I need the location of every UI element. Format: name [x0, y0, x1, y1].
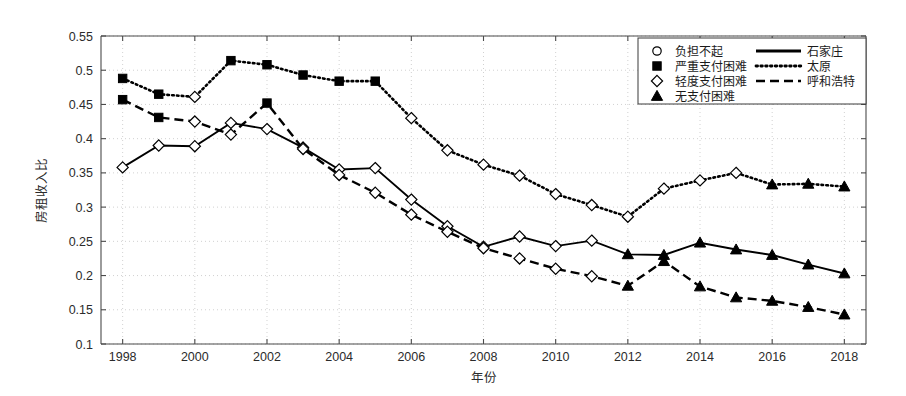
x-tick-label: 2016	[758, 350, 786, 364]
x-tick-label: 2012	[614, 350, 642, 364]
data-point-marker	[335, 77, 343, 85]
data-point-marker	[370, 187, 381, 198]
x-tick-label: 2018	[830, 350, 858, 364]
y-tick-label: 0.35	[69, 166, 93, 180]
x-tick-label: 2010	[542, 350, 570, 364]
data-point-marker	[263, 99, 271, 107]
legend-label-line: 呼和浩特	[807, 74, 855, 89]
data-point-marker	[118, 95, 126, 103]
data-point-marker	[155, 113, 163, 121]
y-tick-label: 0.15	[69, 303, 93, 317]
y-tick-label: 0.25	[69, 235, 93, 249]
data-point-marker	[694, 175, 705, 186]
x-tick-label: 2008	[470, 350, 498, 364]
legend-label-marker: 无支付困难	[675, 90, 735, 104]
x-tick-label: 1998	[109, 350, 137, 364]
legend-marker-circle	[653, 47, 661, 55]
data-point-marker	[189, 141, 200, 152]
data-point-marker	[550, 241, 561, 252]
x-tick-label: 2006	[397, 350, 425, 364]
data-point-marker	[155, 90, 163, 98]
data-point-marker	[118, 74, 126, 82]
data-point-marker	[225, 117, 236, 128]
data-point-marker	[153, 140, 164, 151]
y-tick-label: 0.2	[76, 269, 93, 283]
x-axis-title: 年份	[471, 370, 497, 385]
x-tick-label: 2014	[686, 350, 714, 364]
data-point-marker	[371, 77, 379, 85]
y-tick-label: 0.45	[69, 98, 93, 112]
x-tick-label: 2002	[253, 350, 281, 364]
legend-marker-square	[653, 62, 661, 70]
data-point-marker	[694, 237, 705, 247]
data-point-marker	[261, 123, 272, 134]
data-point-marker	[442, 145, 453, 156]
rent-income-ratio-chart: 0.10.150.20.250.30.350.40.450.50.5519982…	[0, 0, 906, 396]
data-point-marker	[550, 263, 561, 274]
y-tick-label: 0.5	[76, 64, 93, 78]
data-point-marker	[586, 199, 597, 210]
data-point-marker	[478, 159, 489, 170]
data-point-marker	[550, 189, 561, 200]
data-point-marker	[514, 231, 525, 242]
chart-canvas: 0.10.150.20.250.30.350.40.450.50.5519982…	[0, 0, 906, 396]
y-tick-label: 0.1	[76, 338, 93, 352]
data-point-marker	[514, 170, 525, 181]
legend-label-line: 石家庄	[807, 44, 843, 59]
y-tick-label: 0.3	[76, 201, 93, 215]
data-point-marker	[299, 71, 307, 79]
y-tick-label: 0.4	[76, 132, 93, 146]
x-tick-label: 2004	[325, 350, 353, 364]
y-tick-label: 0.55	[69, 30, 93, 44]
legend-label-line: 太原	[807, 59, 831, 74]
data-point-marker	[406, 209, 417, 220]
data-point-marker	[839, 309, 850, 319]
x-tick-label: 2000	[181, 350, 209, 364]
data-point-marker	[514, 253, 525, 264]
y-axis-title: 房租收入比	[34, 158, 49, 223]
data-point-marker	[730, 167, 741, 178]
data-point-marker	[189, 116, 200, 127]
legend-label-marker: 负担不起	[675, 45, 723, 59]
legend-label-marker: 严重支付困难	[675, 60, 747, 74]
chart-legend: 负担不起严重支付困难轻度支付困难无支付困难石家庄太原呼和浩特	[638, 38, 866, 104]
data-point-marker	[117, 162, 128, 173]
data-point-marker	[263, 61, 271, 69]
series-呼和浩特	[118, 95, 849, 318]
data-point-marker	[227, 56, 235, 64]
legend-label-marker: 轻度支付困难	[675, 74, 747, 89]
data-point-marker	[586, 271, 597, 282]
data-point-marker	[586, 235, 597, 246]
